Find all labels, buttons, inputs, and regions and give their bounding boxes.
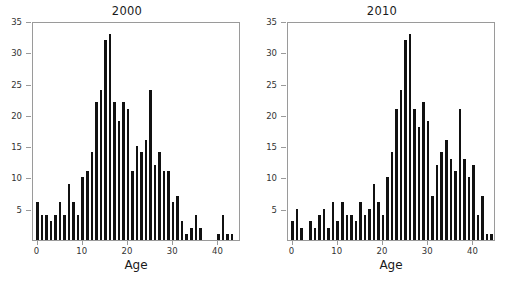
x-axis-tick-label: 10	[76, 246, 87, 256]
histogram-bar	[95, 102, 97, 240]
histogram-bar	[409, 34, 411, 240]
y-axis-tick	[26, 116, 31, 117]
histogram-bar	[472, 165, 474, 240]
histogram-bar	[167, 171, 169, 240]
histogram-bar	[122, 102, 124, 240]
histogram-bar	[109, 34, 111, 240]
histogram-bar	[341, 202, 343, 240]
y-axis-tick-label: 15	[266, 142, 277, 152]
y-axis-tick-label: 30	[266, 48, 277, 58]
panel-title-2000: 2000	[0, 4, 254, 18]
histogram-bar	[400, 90, 402, 240]
histogram-bar	[154, 165, 156, 240]
y-axis-tick	[26, 178, 31, 179]
y-axis-tick	[281, 210, 286, 211]
histogram-bar	[136, 146, 138, 240]
y-axis-tick	[26, 53, 31, 54]
panel-2010: 2010 5101520253035 010203040 Age	[255, 0, 509, 287]
y-axis-tick-label: 30	[11, 48, 22, 58]
x-axis-title-2000: Age	[32, 258, 240, 272]
histogram-bar	[468, 177, 470, 240]
y-axis-tick-label: 35	[11, 17, 22, 27]
histogram-bar	[391, 152, 393, 240]
histogram-bar	[231, 234, 233, 240]
histogram-bar	[50, 221, 52, 240]
histogram-bar	[300, 228, 302, 241]
histogram-bar	[77, 215, 79, 240]
histogram-bar	[217, 234, 219, 240]
histogram-bar	[386, 177, 388, 240]
histogram-bar	[149, 90, 151, 240]
panel-title-2010: 2010	[255, 4, 509, 18]
x-axis-tick	[427, 241, 428, 245]
x-axis-tick	[382, 241, 383, 245]
panel-2000: 2000 5101520253035 010203040 Age	[0, 0, 254, 287]
histogram-bar	[314, 228, 316, 241]
histogram-bar	[373, 184, 375, 240]
histogram-bar	[176, 196, 178, 240]
histogram-bar	[296, 209, 298, 240]
histogram-bar	[172, 202, 174, 240]
histogram-bar	[327, 228, 329, 241]
y-axis-tick-label: 15	[11, 142, 22, 152]
x-axis-tick	[82, 241, 83, 245]
histogram-bar	[113, 102, 115, 240]
histogram-bar	[63, 215, 65, 240]
histogram-bar	[81, 177, 83, 240]
histogram-bar	[118, 121, 120, 240]
histogram-bar	[436, 165, 438, 240]
histogram-bar	[382, 215, 384, 240]
histogram-bar	[413, 109, 415, 240]
histogram-bar	[190, 228, 192, 241]
histogram-bar	[41, 215, 43, 240]
x-axis-tick-label: 0	[289, 246, 294, 256]
histogram-bar	[323, 209, 325, 240]
histogram-bar	[68, 184, 70, 240]
x-axis-tick-label: 30	[422, 246, 433, 256]
histogram-bar	[355, 221, 357, 240]
histogram-bar	[404, 40, 406, 240]
histogram-figure: 2000 5101520253035 010203040 Age 2010 51…	[0, 0, 509, 287]
histogram-bar	[309, 221, 311, 240]
y-axis-tick-label: 25	[11, 80, 22, 90]
histogram-bar	[364, 215, 366, 240]
histogram-bar	[59, 202, 61, 240]
histogram-bar	[418, 127, 420, 240]
histogram-bar	[100, 90, 102, 240]
y-axis-tick	[26, 210, 31, 211]
x-axis-tick	[172, 241, 173, 245]
plot-frame-2000	[32, 22, 240, 241]
histogram-bar	[350, 215, 352, 240]
histogram-bar	[486, 234, 488, 240]
histogram-bar	[104, 40, 106, 240]
histogram-bar	[490, 234, 492, 240]
histogram-bar	[163, 171, 165, 240]
x-axis-tick	[337, 241, 338, 245]
y-axis-tick	[281, 147, 286, 148]
histogram-bar	[36, 202, 38, 240]
histogram-bar	[450, 159, 452, 240]
plot-frame-2010	[287, 22, 495, 241]
histogram-bar	[131, 171, 133, 240]
x-axis-tick	[292, 241, 293, 245]
histogram-bar	[222, 215, 224, 240]
histogram-bar	[422, 102, 424, 240]
histogram-bar	[45, 215, 47, 240]
histogram-bar	[140, 152, 142, 240]
histogram-bar	[145, 140, 147, 240]
y-axis-tick	[281, 85, 286, 86]
histogram-bar	[158, 152, 160, 240]
histogram-bar	[226, 234, 228, 240]
histogram-bar	[318, 215, 320, 240]
histogram-bar	[336, 221, 338, 240]
bars-layer-2010	[288, 23, 494, 240]
x-axis-tick	[217, 241, 218, 245]
y-axis-tick-label: 20	[266, 111, 277, 121]
y-axis-tick-label: 20	[11, 111, 22, 121]
histogram-bar	[427, 121, 429, 240]
histogram-bar	[368, 209, 370, 240]
x-axis-tick	[472, 241, 473, 245]
histogram-bar	[377, 202, 379, 240]
x-axis-tick-label: 20	[377, 246, 388, 256]
histogram-bar	[431, 196, 433, 240]
